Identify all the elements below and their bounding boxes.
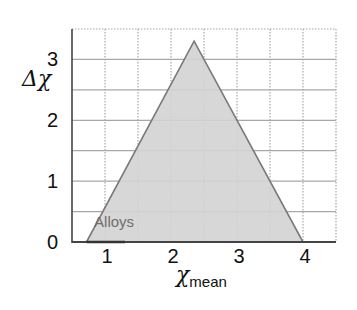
x-tick-label: 3 (233, 245, 244, 267)
y-tick-label: 2 (47, 109, 58, 131)
x-tick-label: 1 (101, 245, 112, 267)
x-axis-label-sub: mean (189, 273, 227, 290)
y-tick-label: 1 (47, 170, 58, 192)
y-tick-label: 0 (47, 231, 58, 253)
x-tick-label: 4 (299, 245, 310, 267)
x-axis-label: χmean (174, 262, 227, 290)
van-arkel-ketelaar-chart: 0123 1234 Alloys Δχ χmean (0, 0, 357, 310)
alloys-label: Alloys (94, 213, 134, 230)
x-tick-labels: 1234 (101, 245, 310, 267)
y-axis-label: Δχ (21, 66, 53, 91)
